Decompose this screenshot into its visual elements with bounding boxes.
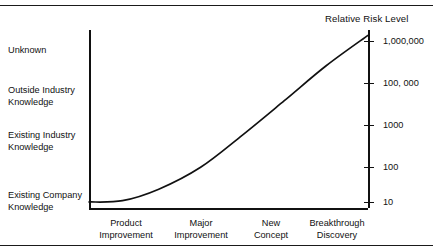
risk-curve xyxy=(89,30,368,208)
right-axis-tick-label: 1,000,000 xyxy=(383,36,424,46)
x-axis-labels: Product Improvement Major Improvement Ne… xyxy=(89,218,368,244)
right-axis-tick xyxy=(364,125,374,126)
right-axis-tick xyxy=(364,167,374,168)
right-axis-tick-label: 10 xyxy=(383,197,393,207)
right-axis-tick xyxy=(364,202,374,203)
left-axis-tick-label: Outside Industry Knowledge xyxy=(8,85,88,108)
left-axis-tick-line2: Knowledge xyxy=(8,142,88,154)
right-axis-tick-label: 100 xyxy=(383,162,398,172)
plot-area: 1,000,000 100, 000 1000 100 10 xyxy=(89,30,368,208)
left-axis-tick-line2: Knowledge xyxy=(8,97,88,109)
x-axis-tick-label: Breakthrough Discovery xyxy=(292,218,382,241)
chart-title: Relative Risk Level xyxy=(325,13,408,24)
left-axis-tick-line1: Outside Industry xyxy=(8,85,88,97)
right-axis-tick-label: 100, 000 xyxy=(383,78,419,88)
right-axis-tick xyxy=(364,83,374,84)
y-axis-right-line xyxy=(368,30,370,208)
x-axis-tick-line2: Discovery xyxy=(292,230,382,242)
left-axis-tick-line1: Existing Industry xyxy=(8,130,88,142)
left-axis-tick-label: Unknown xyxy=(8,45,88,57)
x-axis-line xyxy=(89,208,368,210)
left-axis-tick-line1: Existing Company xyxy=(8,190,88,202)
left-axis-tick-label: Existing Industry Knowledge xyxy=(8,130,88,153)
left-axis-tick-label: Existing Company Knowledge xyxy=(8,190,88,213)
left-axis-labels: Unknown Outside Industry Knowledge Exist… xyxy=(0,0,86,252)
x-axis-tick-line1: Breakthrough xyxy=(292,218,382,230)
right-axis-tick-label: 1000 xyxy=(383,120,403,130)
left-axis-tick-line2: Knowledge xyxy=(8,202,88,214)
right-axis-tick xyxy=(364,41,374,42)
left-axis-tick-line1: Unknown xyxy=(8,45,88,57)
